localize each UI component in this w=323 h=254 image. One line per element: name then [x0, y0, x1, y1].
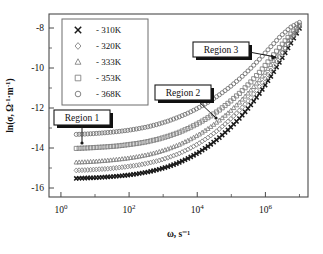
- data-marker: [163, 120, 167, 124]
- data-marker: [237, 91, 241, 95]
- data-marker: [180, 129, 184, 133]
- legend-label-320K: - 320K: [96, 41, 122, 51]
- data-marker: [246, 83, 250, 87]
- data-marker: [80, 168, 84, 173]
- data-marker: [266, 66, 270, 70]
- plot-canvas: 100102104106ω, s⁻¹-8-10-12-14-16ln(σ, Ω-…: [0, 0, 323, 254]
- data-marker: [183, 128, 187, 132]
- data-marker: [191, 144, 195, 149]
- data-marker: [94, 145, 98, 149]
- x-tick-label: 100: [54, 203, 67, 215]
- data-marker: [192, 124, 196, 128]
- data-marker: [97, 145, 101, 149]
- data-marker: [194, 122, 198, 126]
- x-tick-label: 102: [123, 203, 137, 215]
- region-2-leader-dot: [214, 116, 217, 119]
- data-marker: [77, 146, 81, 150]
- y-tick-label: -16: [31, 183, 44, 193]
- data-marker: [77, 168, 81, 173]
- data-marker: [257, 92, 261, 96]
- region-1-label: Region 1: [65, 113, 100, 123]
- legend-label-333K: - 333K: [96, 57, 122, 67]
- data-marker: [269, 63, 273, 67]
- data-marker: [194, 142, 198, 147]
- y-tick-label: -10: [31, 63, 44, 73]
- data-marker: [74, 146, 78, 150]
- data-marker: [203, 137, 207, 142]
- data-marker: [186, 127, 190, 131]
- data-marker: [232, 96, 236, 100]
- y-axis-title: ln(σ, Ω-1·m-1): [4, 78, 17, 133]
- legend-label-353K: - 353K: [96, 73, 122, 83]
- x-tick-label: 104: [191, 203, 205, 215]
- data-marker: [277, 50, 281, 54]
- data-marker: [83, 146, 87, 150]
- x-axis-title: ω, s⁻¹: [167, 229, 190, 239]
- data-marker: [83, 168, 87, 173]
- data-marker: [200, 139, 204, 144]
- region-3-label: Region 3: [204, 45, 239, 55]
- data-marker: [160, 121, 164, 125]
- conductivity-figure: 100102104106ω, s⁻¹-8-10-12-14-16ln(σ, Ω-…: [0, 0, 323, 254]
- data-marker: [89, 146, 93, 150]
- data-marker: [234, 94, 238, 98]
- data-marker: [86, 146, 90, 150]
- data-marker: [157, 122, 161, 126]
- data-marker: [100, 145, 104, 149]
- region-2-label: Region 2: [166, 88, 201, 98]
- region-1-leader-dot: [80, 141, 83, 144]
- data-marker: [154, 123, 158, 127]
- data-marker: [240, 89, 244, 93]
- data-marker: [177, 130, 181, 134]
- x-tick-label: 106: [259, 203, 273, 215]
- data-marker: [189, 125, 193, 129]
- data-marker: [197, 141, 201, 146]
- legend-label-368K: - 368K: [96, 89, 122, 99]
- y-tick-label: -8: [36, 23, 44, 33]
- y-tick-label: -14: [31, 143, 44, 153]
- data-marker: [243, 86, 247, 90]
- data-marker: [103, 145, 107, 149]
- data-marker: [91, 146, 95, 150]
- y-tick-label: -12: [31, 103, 44, 113]
- legend-label-310K: - 310K: [96, 25, 122, 35]
- data-marker: [74, 168, 78, 173]
- data-marker: [80, 146, 84, 150]
